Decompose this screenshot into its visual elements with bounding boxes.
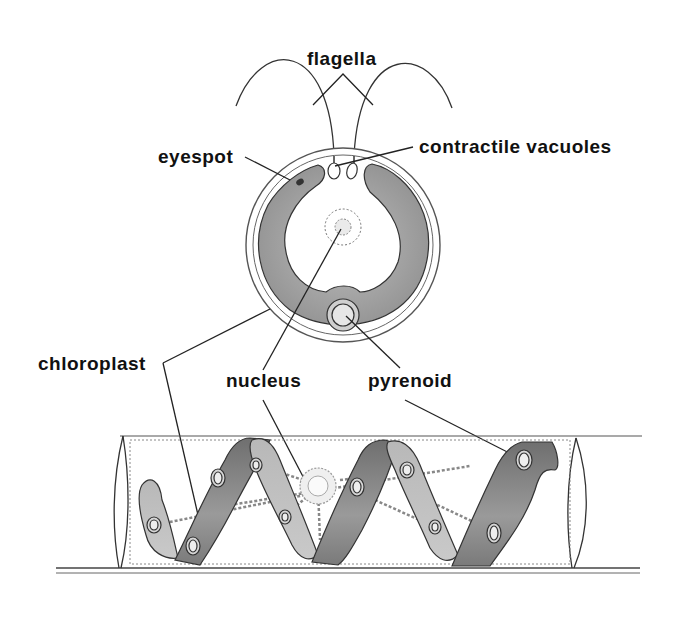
label-nucleus: nucleus: [226, 371, 301, 390]
label-flagella: flagella: [307, 49, 376, 68]
diagram-canvas: [0, 0, 678, 618]
spiral-chloroplast-band-6: [452, 442, 558, 566]
flagellum-left: [236, 60, 334, 156]
label-pyrenoid: pyrenoid: [368, 371, 452, 390]
filament-nucleus-inner: [308, 476, 328, 496]
leader-chloroplast-bottom: [163, 363, 198, 515]
label-chloroplast: chloroplast: [38, 354, 146, 373]
nucleolus: [335, 219, 351, 235]
label-contractile-vacuoles: contractile vacuoles: [419, 137, 612, 156]
leader-chloroplast-top: [163, 309, 270, 363]
leader-pyrenoid-bottom: [405, 400, 523, 460]
label-eyespot: eyespot: [158, 147, 233, 166]
spiral-chloroplast-band-5: [387, 441, 458, 560]
pyrenoid-inner: [332, 304, 354, 326]
single-cell-illustration: [236, 60, 452, 342]
filament-cell-illustration: [56, 436, 642, 573]
